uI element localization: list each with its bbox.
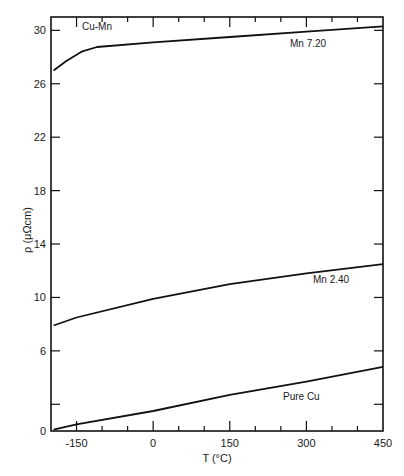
plot-frame [51,17,383,431]
y-axis-ticks: 06101418222630 [34,24,383,437]
system-label: Cu-Mn [82,21,112,32]
y-tick-label: 14 [34,238,46,250]
series-line-mn-7-20 [54,26,383,70]
x-tick-label: 150 [221,437,239,449]
series-label-pure-cu: Pure Cu [283,391,320,402]
y-tick-label: 6 [40,345,46,357]
x-tick-label: 0 [150,437,156,449]
series-lines [54,26,383,429]
y-tick-label: 30 [34,24,46,36]
x-tick-label: 300 [297,437,315,449]
y-axis-title: ρ (μΩcm) [21,207,33,253]
y-tick-label: 18 [34,185,46,197]
x-tick-label: -150 [66,437,88,449]
y-tick-label: 10 [34,291,46,303]
series-label-mn-240: Mn 2.40 [313,274,350,285]
y-tick-label: 26 [34,78,46,90]
x-axis-title: T (°C) [202,452,231,464]
x-tick-label: 450 [374,437,392,449]
y-tick-label: 22 [34,131,46,143]
series-label-mn-720: Mn 7.20 [290,38,327,49]
series-line-pure-cu [54,367,383,430]
y-tick-label: 0 [40,425,46,437]
resistivity-chart: -1500150300450 06101418222630 Cu-Mn Mn 7… [0,0,404,476]
x-axis-ticks: -1500150300450 [66,17,393,449]
